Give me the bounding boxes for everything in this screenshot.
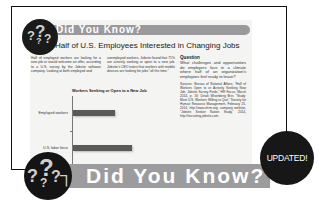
article-heading: Half of U.S. Employees Interested in Cha… — [55, 41, 240, 50]
updated-badge-label: UPDATED! — [267, 153, 308, 163]
bottom-banner-title: Did You Know? — [86, 164, 265, 188]
bar-labor-force — [73, 145, 132, 151]
chart-tick — [70, 131, 73, 132]
bar-label-employed: Employed workers — [28, 111, 68, 115]
question-marks-icon: ? ? ? ? — [22, 19, 58, 55]
question-marks-icon-large: ? ? ? ? ┐ — [24, 152, 72, 200]
sources-text: Sources: Bureau of National Affairs, "Ha… — [180, 82, 246, 118]
body-column-1: Half of employed workers are looking for… — [31, 56, 101, 73]
chart-title: Workers Seeking or Open to a New Job — [72, 88, 147, 93]
body-column-2: unemployed workers, Jobvite found that 7… — [107, 56, 175, 73]
updated-badge: UPDATED! — [260, 131, 314, 185]
sidebar-column: Question What challenges and opportuniti… — [180, 56, 246, 118]
bottom-banner: Did You Know? — [62, 164, 270, 188]
bar-label-labor-force: U.S. labor force — [28, 146, 68, 150]
cutoff-text: ▁▁▁▁▁▁▁ — [40, 199, 280, 206]
question-text: What challenges and opportunities do emp… — [180, 61, 246, 79]
top-banner-title: Did You Know? — [56, 24, 142, 35]
top-banner: Did You Know? — [50, 25, 250, 35]
bar-employed — [73, 110, 115, 116]
